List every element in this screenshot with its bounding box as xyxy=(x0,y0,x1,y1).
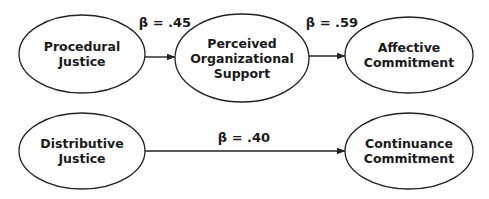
beta-coefficient-label: β = .59 xyxy=(306,15,358,30)
node-label-line: Justice xyxy=(57,151,105,166)
beta-coefficient-label: β = .45 xyxy=(139,15,191,30)
path-diagram: β = .45β = .59β = .40 ProceduralJusticeP… xyxy=(0,0,489,199)
node-label-line: Perceived xyxy=(207,36,277,51)
edge-distributive-justice-to-continuance-commitment: β = .40 xyxy=(145,130,345,151)
node-label-line: Distributive xyxy=(40,136,123,151)
node-label-line: Commitment xyxy=(364,151,454,166)
node-perceived-organizational-support: PerceivedOrganizationalSupport xyxy=(175,14,309,102)
node-label-line: Support xyxy=(214,66,271,81)
nodes-layer: ProceduralJusticePerceivedOrganizational… xyxy=(19,14,473,189)
node-label-line: Justice xyxy=(57,54,105,69)
node-label-line: Procedural xyxy=(44,39,121,54)
node-label-line: Commitment xyxy=(364,55,454,70)
node-distributive-justice: DistributiveJustice xyxy=(19,113,145,189)
node-label-line: Continuance xyxy=(365,136,453,151)
beta-coefficient-label: β = .40 xyxy=(218,130,270,145)
node-label-line: Affective xyxy=(378,40,441,55)
node-continuance-commitment: ContinuanceCommitment xyxy=(345,113,473,189)
node-label-line: Organizational xyxy=(190,51,294,66)
node-procedural-justice: ProceduralJustice xyxy=(19,15,145,93)
node-affective-commitment: AffectiveCommitment xyxy=(345,17,473,93)
